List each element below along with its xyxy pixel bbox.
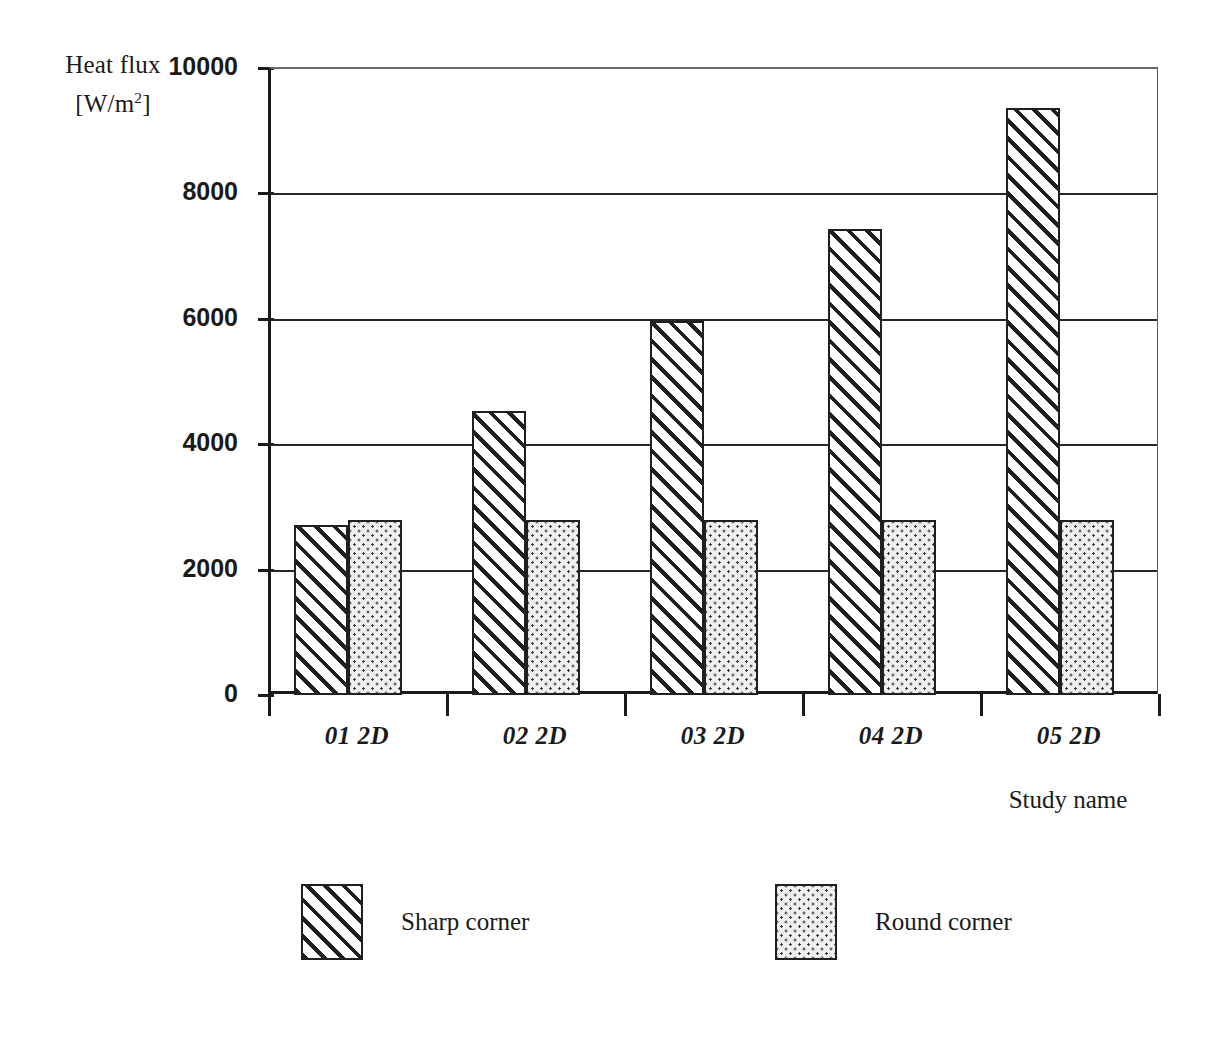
x-tick-label-3: 03 2D xyxy=(623,722,803,750)
legend-label-round-corner: Round corner xyxy=(875,908,1012,936)
x-axis-title: Study name xyxy=(958,786,1178,814)
y-tick-label-0: 0 xyxy=(88,681,238,706)
gridline-10000 xyxy=(271,68,1157,69)
bar-02-2D-round-corner xyxy=(526,520,580,695)
bar-03-2D-round-corner xyxy=(704,520,758,695)
x-tick-label-5: 05 2D xyxy=(979,722,1159,750)
legend-label-sharp-corner: Sharp corner xyxy=(401,908,529,936)
dots-swatch-icon xyxy=(775,884,837,960)
y-tick-label-10000: 10000 xyxy=(88,54,238,79)
x-tick-mark-2 xyxy=(624,694,627,716)
bar-01-2D-round-corner xyxy=(348,520,402,695)
x-tick-label-2: 02 2D xyxy=(445,722,625,750)
x-tick-label-4: 04 2D xyxy=(801,722,981,750)
x-tick-mark-4 xyxy=(980,694,983,716)
x-tick-mark-5 xyxy=(1158,694,1161,716)
y-tick-label-8000: 8000 xyxy=(88,179,238,204)
hatch-swatch-icon xyxy=(301,884,363,960)
x-tick-mark-0 xyxy=(268,694,271,716)
chart-legend: Sharp corner Round corner xyxy=(0,884,1219,974)
heat-flux-bar-chart: Heat flux [W/m2] 0200040006000800010000 … xyxy=(0,0,1219,1038)
y-tick-label-2000: 2000 xyxy=(88,556,238,581)
y-axis-title-line2: [W/m2] xyxy=(48,81,178,120)
bar-05-2D-round-corner xyxy=(1060,520,1114,695)
bar-04-2D-round-corner xyxy=(882,520,936,695)
bar-02-2D-sharp-corner xyxy=(472,411,526,695)
y-tick-mark-0 xyxy=(258,694,274,697)
x-tick-mark-3 xyxy=(802,694,805,716)
x-tick-mark-1 xyxy=(446,694,449,716)
bar-04-2D-sharp-corner xyxy=(828,229,882,695)
bar-01-2D-sharp-corner xyxy=(294,525,348,695)
plot-area xyxy=(268,67,1158,694)
x-tick-label-1: 01 2D xyxy=(267,722,447,750)
y-tick-label-6000: 6000 xyxy=(88,305,238,330)
bar-03-2D-sharp-corner xyxy=(650,321,704,695)
y-axis-unit-suffix: ] xyxy=(142,90,151,117)
y-tick-label-4000: 4000 xyxy=(88,430,238,455)
y-axis-unit-prefix: [W/m xyxy=(75,90,134,117)
bar-05-2D-sharp-corner xyxy=(1006,108,1060,695)
